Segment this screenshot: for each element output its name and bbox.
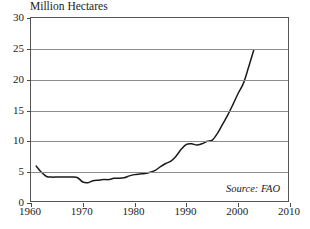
y-axis-tick bbox=[27, 141, 31, 142]
x-axis-tick bbox=[238, 203, 239, 207]
gridline-horizontal bbox=[31, 80, 288, 81]
y-axis-tick-label: 30 bbox=[2, 12, 24, 23]
chart-title: Million Hectares bbox=[30, 0, 108, 13]
x-axis-tick bbox=[31, 203, 32, 207]
plot-area: Source: FAO bbox=[30, 17, 289, 202]
y-axis-tick bbox=[27, 18, 31, 19]
gridline-horizontal bbox=[31, 111, 288, 112]
gridline-horizontal bbox=[31, 172, 288, 173]
x-axis-tick bbox=[290, 203, 291, 207]
y-axis-tick-label: 10 bbox=[2, 135, 24, 146]
x-axis-tick-labels: 196019701980199020002010 bbox=[0, 205, 310, 225]
y-axis-tick bbox=[27, 49, 31, 50]
y-axis-tick bbox=[27, 80, 31, 81]
gridline-horizontal bbox=[31, 49, 288, 50]
x-axis-tick-label: 1980 bbox=[123, 205, 145, 218]
y-axis-tick-label: 20 bbox=[2, 74, 24, 85]
x-axis-tick-label: 2000 bbox=[226, 205, 248, 218]
y-axis-tick-label: 15 bbox=[2, 105, 24, 116]
y-axis-tick-label: 25 bbox=[2, 43, 24, 54]
x-axis-tick bbox=[135, 203, 136, 207]
x-axis-tick-label: 1970 bbox=[71, 205, 93, 218]
gridline-horizontal bbox=[31, 141, 288, 142]
x-axis-tick bbox=[83, 203, 84, 207]
y-axis-tick bbox=[27, 111, 31, 112]
y-axis-tick-label: 5 bbox=[2, 166, 24, 177]
x-axis-tick-label: 1960 bbox=[19, 205, 41, 218]
x-axis-tick-label: 2010 bbox=[278, 205, 300, 218]
y-axis-tick bbox=[27, 172, 31, 173]
chart-figure: Million Hectares 051015202530 1960197019… bbox=[0, 0, 310, 229]
x-axis-tick-label: 1990 bbox=[174, 205, 196, 218]
x-axis-tick bbox=[186, 203, 187, 207]
source-note: Source: FAO bbox=[226, 183, 280, 195]
